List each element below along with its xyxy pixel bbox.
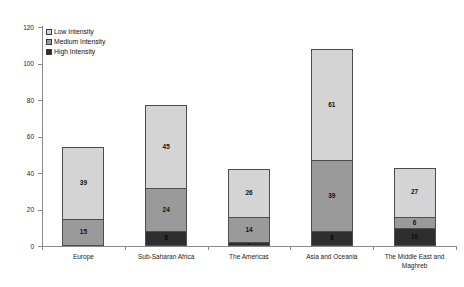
bar-segment-medium[interactable]: 39 <box>311 160 353 231</box>
bar-segment-medium[interactable]: 15 <box>62 219 104 246</box>
bar-value-label: 8 <box>330 235 334 242</box>
y-axis-tick-label: 40 <box>27 170 34 177</box>
category-label: Sub-Saharan Africa <box>125 252 208 261</box>
bar-segment-high[interactable]: 8 <box>311 231 353 246</box>
bar-segment-low[interactable]: 26 <box>228 169 270 216</box>
y-axis-tick-label: 100 <box>23 61 34 68</box>
y-axis-tick-label: 80 <box>27 97 34 104</box>
x-axis-tick <box>125 246 126 250</box>
bar-value-label: 61 <box>328 102 335 109</box>
bar-value-label: 39 <box>80 180 87 187</box>
bar-value-label: 14 <box>245 227 252 234</box>
bar-value-label: 15 <box>80 229 87 236</box>
bar-segment-low[interactable]: 39 <box>62 147 104 218</box>
x-axis-tick <box>290 246 291 250</box>
bar-value-label: 6 <box>413 220 417 227</box>
bar-segment-high[interactable]: 10 <box>394 228 436 246</box>
category-label: Asia and Oceania <box>290 252 373 261</box>
bar-stack: 21426 <box>228 169 270 246</box>
bar-segment-medium[interactable]: 14 <box>228 217 270 243</box>
y-axis-tick-label: 20 <box>27 207 34 214</box>
x-axis-tick <box>208 246 209 250</box>
x-axis-tick <box>42 246 43 250</box>
bar-value-label: 45 <box>163 144 170 151</box>
category-label: The Americas <box>208 252 291 261</box>
bar-stack-group[interactable]: 21426 <box>228 27 270 246</box>
y-axis-tick-label: 0 <box>30 243 34 250</box>
bar-stack: 83961 <box>311 49 353 246</box>
bar-value-label: 24 <box>163 207 170 214</box>
bar-segment-medium[interactable]: 24 <box>145 188 187 232</box>
y-axis-tick-label: 120 <box>23 24 34 31</box>
bar-stack: 1539 <box>62 147 104 246</box>
bar-stack-group[interactable]: 82445 <box>145 27 187 246</box>
bar-stack-group[interactable]: 10627 <box>394 27 436 246</box>
bar-segment-low[interactable]: 61 <box>311 49 353 160</box>
x-axis-line <box>42 246 456 247</box>
y-axis-tick-label: 60 <box>27 134 34 141</box>
bar-stack-group[interactable]: 1539 <box>62 27 104 246</box>
bar-value-label: 10 <box>411 234 418 241</box>
bar-value-label: 27 <box>411 189 418 196</box>
bar-stack-group[interactable]: 83961 <box>311 27 353 246</box>
plot-area: 153982445214268396110627 <box>42 27 456 246</box>
bar-value-label: 26 <box>245 190 252 197</box>
x-axis-tick <box>456 246 457 250</box>
bar-segment-high[interactable]: 8 <box>145 231 187 246</box>
bar-segment-medium[interactable]: 6 <box>394 217 436 228</box>
bar-segment-high[interactable]: 2 <box>228 242 270 246</box>
bar-segment-low[interactable]: 27 <box>394 168 436 217</box>
bar-value-label: 8 <box>164 235 168 242</box>
x-axis-tick <box>373 246 374 250</box>
category-label: The Middle East and Maghreb <box>373 252 456 270</box>
category-label: Europe <box>42 252 125 261</box>
bar-segment-low[interactable]: 45 <box>145 105 187 187</box>
bar-value-label: 2 <box>247 242 251 246</box>
bar-stack: 82445 <box>145 105 187 246</box>
bar-value-label: 39 <box>328 193 335 200</box>
bar-stack: 10627 <box>394 168 436 246</box>
stacked-bar-chart: 120100806040200 Low IntensityMedium Inte… <box>0 0 464 287</box>
